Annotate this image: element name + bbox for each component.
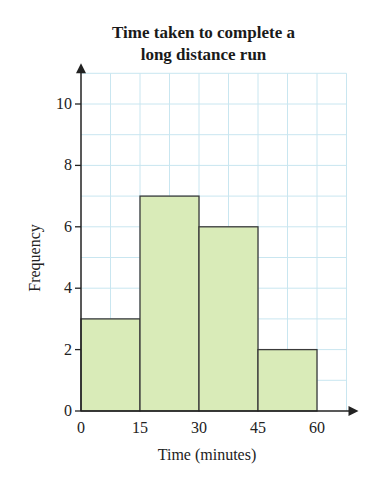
y-tick-label: 6	[64, 218, 72, 235]
x-tick-label: 30	[191, 419, 207, 436]
histogram-plot: 015304560 0246810 Time (minutes) Frequen…	[0, 0, 371, 491]
x-tick-label: 15	[132, 419, 148, 436]
x-tick-label: 0	[77, 419, 85, 436]
y-axis-label: Frequency	[26, 224, 44, 292]
y-axis-ticks: 0246810	[56, 95, 81, 419]
histogram-bars	[81, 196, 317, 411]
y-tick-label: 0	[64, 402, 72, 419]
y-axis-arrow-icon	[76, 63, 86, 73]
histogram-bar	[140, 196, 199, 411]
y-tick-label: 2	[64, 341, 72, 358]
x-tick-label: 60	[309, 419, 325, 436]
histogram-bar	[199, 227, 258, 411]
y-tick-label: 8	[64, 156, 72, 173]
y-tick-label: 10	[56, 95, 72, 112]
histogram-bar	[81, 319, 140, 411]
x-axis-label: Time (minutes)	[158, 446, 257, 464]
x-axis-ticks: 015304560	[77, 419, 325, 436]
x-axis-arrow-icon	[349, 406, 359, 416]
x-tick-label: 45	[250, 419, 266, 436]
histogram-bar	[258, 350, 317, 411]
y-tick-label: 4	[64, 279, 72, 296]
